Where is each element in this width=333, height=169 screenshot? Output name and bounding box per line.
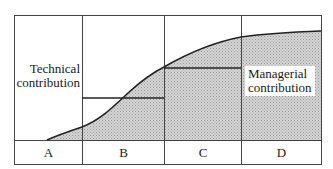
career-contribution-diagram: Technical contribution Managerial contri… (0, 0, 333, 169)
segment-label-b: B (83, 144, 164, 162)
managerial-contribution-label: Managerial contribution (245, 66, 315, 96)
segment-label-c: C (165, 144, 241, 162)
technical-label-line1: Technical (16, 62, 80, 76)
managerial-label-line1: Managerial (248, 67, 312, 81)
technical-label-line2: contribution (16, 76, 80, 90)
managerial-label-line2: contribution (248, 81, 312, 95)
technical-contribution-label: Technical contribution (15, 62, 81, 90)
segment-label-a: A (15, 144, 82, 162)
segment-label-d: D (242, 144, 321, 162)
